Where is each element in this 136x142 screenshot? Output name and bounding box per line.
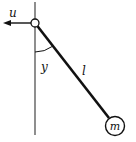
angle-arc [35,46,53,52]
length-label: l [82,64,86,78]
angle-label: y [40,60,48,74]
force-label: u [9,6,17,20]
pendulum-diagram: u y l m [0,0,136,142]
force-arrowhead-icon [3,20,11,26]
pivot-joint [31,19,39,27]
mass-label: m [110,120,120,133]
